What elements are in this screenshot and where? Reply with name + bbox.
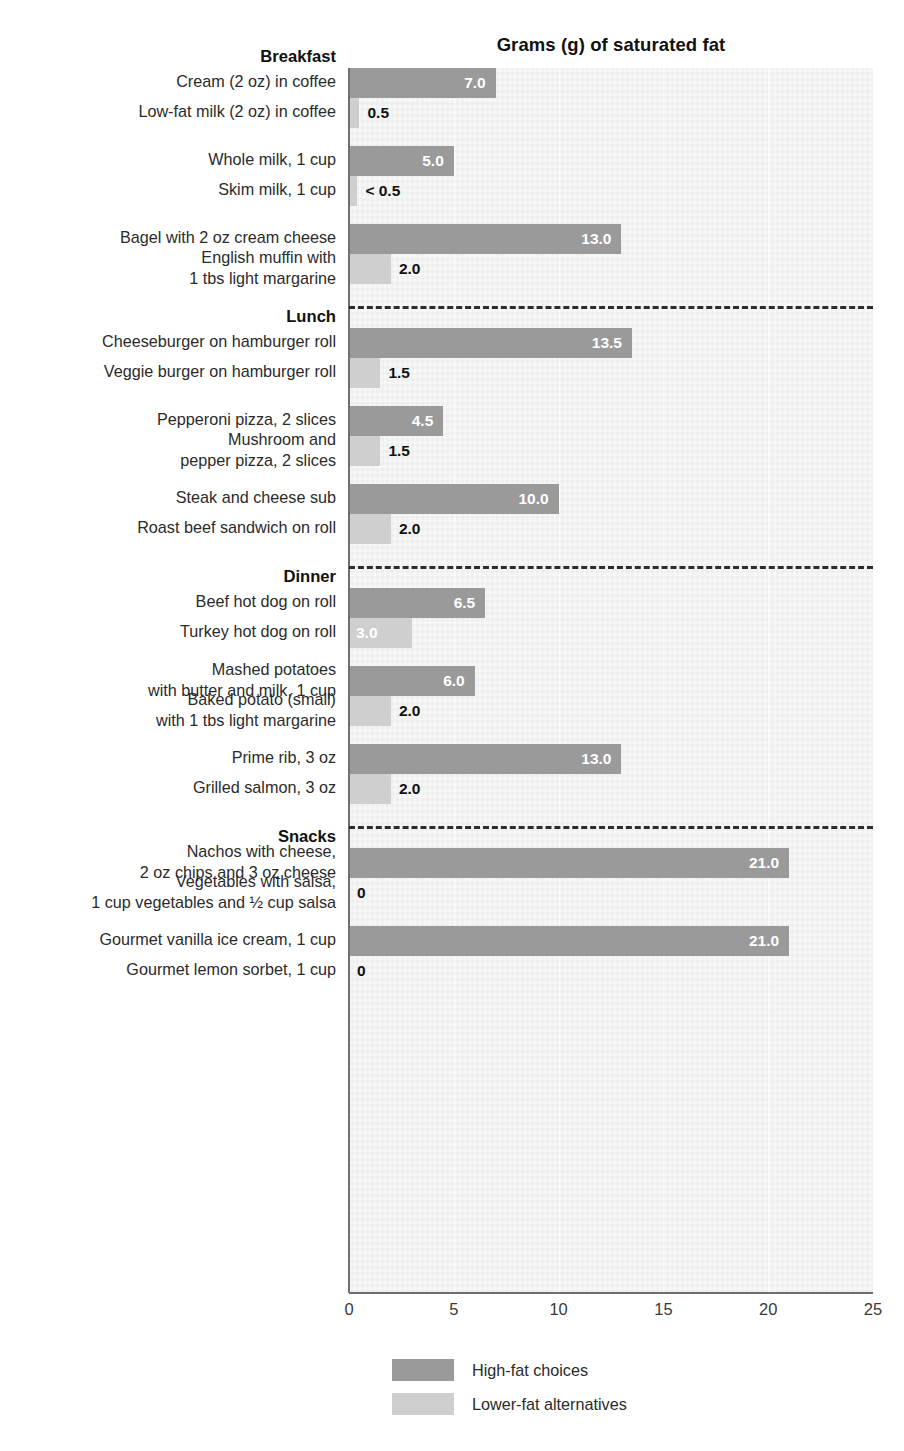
bar-value-label: 21.0 <box>349 848 779 878</box>
category-label: Prime rib, 3 oz <box>0 747 336 769</box>
category-label: Gourmet vanilla ice cream, 1 cup <box>0 929 336 951</box>
category-label: Mushroom and pepper pizza, 2 slices <box>0 429 336 472</box>
bar-low <box>349 514 391 544</box>
x-tick-0: 0 <box>344 1300 353 1319</box>
legend-label-lower-fat: Lower-fat alternatives <box>472 1389 627 1419</box>
category-label: Whole milk, 1 cup <box>0 149 336 171</box>
bar-value-label: 2.0 <box>399 774 421 804</box>
category-label: Veggie burger on hamburger roll <box>0 361 336 383</box>
category-label: English muffin with 1 tbs light margarin… <box>0 247 336 290</box>
bar-low <box>349 436 380 466</box>
category-label: Cheeseburger on hamburger roll <box>0 331 336 353</box>
chart-title: Grams (g) of saturated fat <box>349 34 873 56</box>
bar-value-label: 6.0 <box>349 666 465 696</box>
bar-value-label: 21.0 <box>349 926 779 956</box>
bar-low <box>349 98 359 128</box>
category-label: Baked potato (small) with 1 tbs light ma… <box>0 689 336 732</box>
x-tick-5: 5 <box>449 1300 458 1319</box>
category-label: Steak and cheese sub <box>0 487 336 509</box>
bar-value-label: 1.5 <box>388 358 410 388</box>
bar-low <box>349 176 357 206</box>
section-divider <box>349 566 873 569</box>
bar-value-label: 10.0 <box>349 484 549 514</box>
bar-value-label: 4.5 <box>349 406 433 436</box>
section-divider <box>349 306 873 309</box>
gridline-15 <box>663 68 664 1293</box>
bar-value-label: 3.0 <box>356 618 378 648</box>
section-heading-lunch: Lunch <box>0 307 336 327</box>
gridline-25 <box>873 68 874 1293</box>
x-tick-10: 10 <box>549 1300 567 1319</box>
x-tick-15: 15 <box>654 1300 672 1319</box>
legend-swatch-high-fat <box>392 1359 454 1381</box>
bar-value-label: 0 <box>357 878 366 908</box>
bar-value-label: 2.0 <box>399 696 421 726</box>
category-label: Roast beef sandwich on roll <box>0 517 336 539</box>
bar-value-label: 2.0 <box>399 514 421 544</box>
section-heading-breakfast: Breakfast <box>0 47 336 67</box>
bar-low <box>349 774 391 804</box>
x-tick-20: 20 <box>759 1300 777 1319</box>
saturated-fat-bar-chart: Grams (g) of saturated fat 7.00.55.0< 0.… <box>0 0 904 1451</box>
bar-value-label: 5.0 <box>349 146 444 176</box>
bar-low <box>349 254 391 284</box>
bar-value-label: 1.5 <box>388 436 410 466</box>
category-label: Turkey hot dog on roll <box>0 621 336 643</box>
section-heading-dinner: Dinner <box>0 567 336 587</box>
legend-label-high-fat: High-fat choices <box>472 1355 588 1385</box>
y-axis-line <box>348 68 350 1293</box>
legend-swatch-lower-fat <box>392 1393 454 1415</box>
bar-low <box>349 358 380 388</box>
section-divider <box>349 826 873 829</box>
bar-value-label: < 0.5 <box>365 176 400 206</box>
gridline-20 <box>768 68 769 1293</box>
category-label: Gourmet lemon sorbet, 1 cup <box>0 959 336 981</box>
bar-value-label: 0.5 <box>367 98 389 128</box>
bar-value-label: 6.5 <box>349 588 475 618</box>
category-label: Skim milk, 1 cup <box>0 179 336 201</box>
category-label: Grilled salmon, 3 oz <box>0 777 336 799</box>
x-tick-25: 25 <box>864 1300 882 1319</box>
category-label: Low-fat milk (2 oz) in coffee <box>0 101 336 123</box>
bar-value-label: 13.5 <box>349 328 622 358</box>
bar-value-label: 0 <box>357 956 366 986</box>
category-label: Beef hot dog on roll <box>0 591 336 613</box>
x-axis-line <box>349 1292 873 1294</box>
bar-value-label: 7.0 <box>349 68 486 98</box>
category-label: Vegetables with salsa, 1 cup vegetables … <box>0 871 336 914</box>
bar-value-label: 13.0 <box>349 224 611 254</box>
plot-area: 7.00.55.0< 0.513.02.013.51.54.51.510.02.… <box>349 68 873 1293</box>
category-label: Cream (2 oz) in coffee <box>0 71 336 93</box>
bar-value-label: 13.0 <box>349 744 611 774</box>
bar-value-label: 2.0 <box>399 254 421 284</box>
bar-low <box>349 696 391 726</box>
